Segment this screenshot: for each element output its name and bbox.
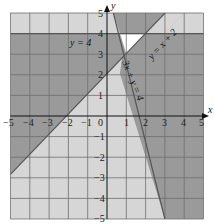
- svg-text:−2: −2: [62, 117, 73, 128]
- svg-text:−4: −4: [23, 117, 34, 128]
- svg-text:2: 2: [143, 117, 148, 128]
- inequality-graph: x y −5 −4 −3 −2 −1 0 1 2 3 4 5 5 4 3 2 1…: [0, 0, 214, 224]
- svg-text:−3: −3: [42, 117, 53, 128]
- x-axis-label: x: [207, 104, 213, 115]
- svg-text:2: 2: [98, 69, 103, 80]
- svg-text:4: 4: [98, 28, 103, 39]
- label-y-equals-4: y = 4: [69, 37, 91, 48]
- svg-text:5: 5: [199, 117, 204, 128]
- svg-text:−1: −1: [81, 117, 92, 128]
- svg-text:−5: −5: [3, 117, 14, 128]
- y-axis-label: y: [110, 0, 116, 11]
- svg-text:3: 3: [98, 49, 103, 60]
- svg-text:−3: −3: [94, 172, 105, 183]
- svg-text:−2: −2: [94, 152, 105, 163]
- svg-text:3: 3: [162, 117, 167, 128]
- svg-text:5: 5: [98, 8, 103, 19]
- svg-text:1: 1: [124, 117, 129, 128]
- y-axis-arrow-icon: [104, 5, 110, 12]
- svg-text:−5: −5: [94, 213, 105, 224]
- svg-text:−4: −4: [94, 193, 105, 204]
- svg-text:0: 0: [98, 117, 103, 128]
- svg-text:4: 4: [181, 117, 186, 128]
- svg-text:1: 1: [98, 90, 103, 101]
- svg-text:−1: −1: [94, 131, 105, 142]
